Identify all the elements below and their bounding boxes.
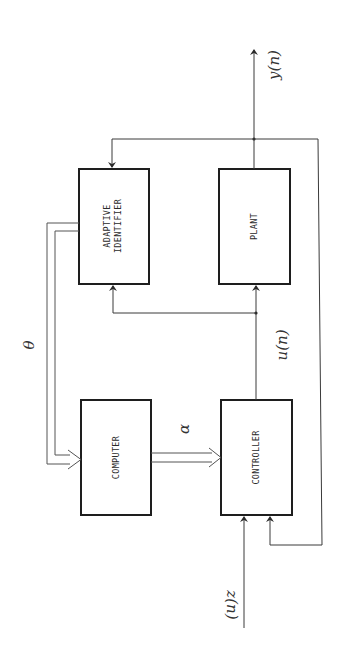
controller-label: CONTROLLER: [251, 418, 262, 498]
output-to-identifier-line: [112, 139, 254, 167]
theta-label: θ: [20, 337, 38, 353]
adaptive-identifier-label-line2: IDENTIFIER: [113, 176, 124, 276]
adaptive-identifier-label-line1: ADAPTIVE: [102, 176, 113, 276]
theta-outer-line: [47, 223, 79, 464]
theta-arrowhead: [68, 450, 81, 469]
block-diagram: ADAPTIVE IDENTIFIER PLANT COMPUTER CONTR…: [0, 0, 345, 661]
plant-label: PLANT: [249, 187, 260, 267]
alpha-label: α: [175, 421, 193, 437]
computer-label: COMPUTER: [111, 418, 122, 498]
reference-signal-label: z(n): [223, 585, 241, 625]
alpha-arrowhead: [209, 448, 221, 467]
output-signal-label: y(n): [265, 45, 283, 85]
control-signal-label: u(n): [273, 325, 291, 365]
adaptive-identifier-label: ADAPTIVE IDENTIFIER: [102, 176, 126, 276]
diagram-canvas: [0, 0, 345, 661]
theta-inner-line: [55, 231, 79, 455]
control-to-identifier-line: [113, 286, 256, 313]
